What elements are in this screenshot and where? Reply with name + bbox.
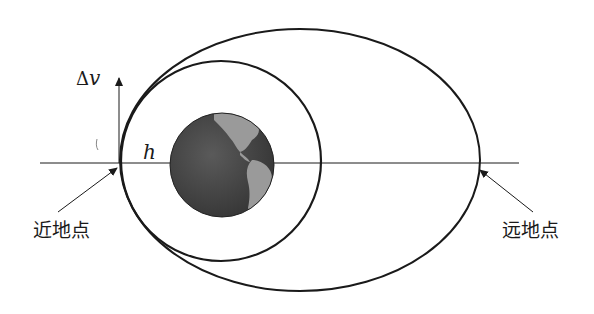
earth-icon — [170, 113, 274, 217]
height-label: h — [143, 140, 156, 164]
delta-v-label: Δv — [76, 66, 100, 90]
diagram-graphics — [0, 0, 594, 314]
perigee-pointer-arrow — [58, 168, 117, 212]
faint-mark — [96, 139, 98, 150]
orbit-diagram: Δv h 近地点 远地点 — [0, 0, 594, 314]
perigee-label: 近地点 — [33, 215, 90, 242]
apogee-pointer-arrow — [480, 170, 533, 212]
apogee-label: 远地点 — [502, 215, 559, 242]
